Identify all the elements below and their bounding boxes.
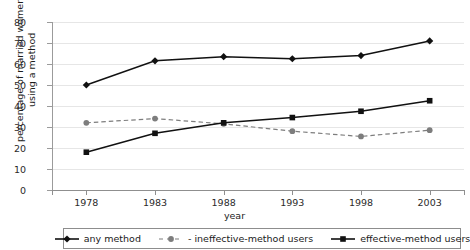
- legend-label-0: any method: [84, 233, 141, 244]
- y-tick-mark-20: [47, 148, 52, 149]
- y-tick-label-20: 20: [0, 143, 26, 154]
- y-tick-mark-40: [47, 106, 52, 107]
- y-tick-label-60: 60: [0, 59, 26, 70]
- legend-item-2[interactable]: effective-method users: [330, 233, 470, 244]
- x-tick-label-1998: 1998: [349, 197, 373, 208]
- gridline-30: [52, 127, 464, 128]
- x-tick-label-2003: 2003: [418, 197, 442, 208]
- circle-dashed-marker: [158, 234, 184, 244]
- y-tick-mark-60: [47, 64, 52, 65]
- gridline-60: [52, 64, 464, 65]
- y-tick-label-70: 70: [0, 38, 26, 49]
- gridlines: [52, 22, 464, 190]
- legend-item-1[interactable]: - ineffective-method users: [158, 233, 313, 244]
- x-tick-label-1993: 1993: [280, 197, 304, 208]
- gridline-20: [52, 148, 464, 149]
- square-line-marker: [330, 234, 356, 244]
- x-tick-mark-1998: [361, 190, 362, 195]
- y-tick-mark-10: [47, 169, 52, 170]
- x-tick-mark-1978: [86, 190, 87, 195]
- y-tick-label-40: 40: [0, 101, 26, 112]
- y-axis-title-line2: using a method: [26, 33, 37, 107]
- y-tick-label-50: 50: [0, 80, 26, 91]
- x-tick-mark-1988: [224, 190, 225, 195]
- y-tick-mark-50: [47, 85, 52, 86]
- y-axis-line: [52, 22, 53, 190]
- x-axis-line: [52, 190, 464, 191]
- gridline-80: [52, 22, 464, 23]
- x-tick-mark-1983: [155, 190, 156, 195]
- x-axis-end-tick-0: [52, 190, 53, 195]
- y-tick-mark-30: [47, 127, 52, 128]
- plot-area: [52, 22, 464, 190]
- y-tick-mark-70: [47, 43, 52, 44]
- y-tick-mark-80: [47, 22, 52, 23]
- gridline-10: [52, 169, 464, 170]
- y-tick-label-10: 10: [0, 164, 26, 175]
- y-tick-label-30: 30: [0, 122, 26, 133]
- legend-label-2: effective-method users: [360, 233, 470, 244]
- x-tick-mark-1993: [292, 190, 293, 195]
- gridline-50: [52, 85, 464, 86]
- x-tick-label-1983: 1983: [143, 197, 167, 208]
- y-tick-label-80: 80: [0, 17, 26, 28]
- legend-label-1: - ineffective-method users: [188, 233, 313, 244]
- chart-legend: any method- ineffective-method userseffe…: [63, 228, 461, 249]
- gridline-40: [52, 106, 464, 107]
- gridline-70: [52, 43, 464, 44]
- x-tick-mark-2003: [430, 190, 431, 195]
- diamond-line-marker: [54, 234, 80, 244]
- x-tick-label-1988: 1988: [212, 197, 236, 208]
- x-axis-title: year: [0, 210, 469, 221]
- y-tick-label-0: 0: [0, 185, 26, 196]
- chart-title-cropped: [36, 0, 296, 2]
- x-tick-label-1978: 1978: [74, 197, 98, 208]
- x-axis-end-tick-1: [464, 190, 465, 195]
- legend-item-0[interactable]: any method: [54, 233, 141, 244]
